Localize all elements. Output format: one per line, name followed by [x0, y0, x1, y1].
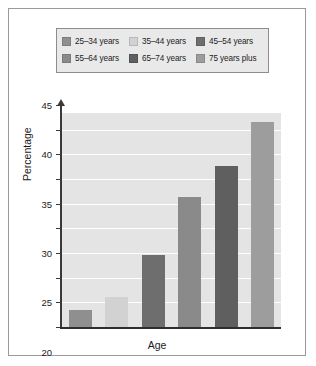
bar-slot — [99, 113, 136, 327]
legend-item-55-64: 55–64 years — [62, 54, 129, 63]
bar-slot — [135, 113, 172, 327]
y-axis-tick: 40 — [56, 130, 61, 131]
y-axis-tick: 10 — [56, 278, 61, 279]
y-axis-tick-label: 35 — [41, 198, 52, 209]
y-axis-tick: 25 — [56, 204, 61, 205]
bar — [142, 255, 165, 327]
bar — [105, 297, 128, 327]
legend-item-65-74: 65–74 years — [129, 54, 196, 63]
chart-figure: 25–34 years 35–44 years 45–54 years 55–6… — [8, 8, 306, 356]
bar-slot — [208, 113, 245, 327]
y-axis-tick-label: 40 — [41, 149, 52, 160]
legend-swatch-icon — [129, 37, 138, 46]
legend-swatch-icon — [196, 54, 205, 63]
legend-item-25-34: 25–34 years — [62, 37, 129, 46]
bar — [178, 197, 201, 327]
y-axis-tick: 5 — [56, 302, 61, 303]
x-axis-title: Age — [9, 339, 305, 351]
legend-label: 55–64 years — [75, 54, 119, 63]
x-axis-line — [60, 327, 281, 329]
legend-label: 65–74 years — [142, 54, 186, 63]
legend-swatch-icon — [196, 37, 205, 46]
y-axis-tick: 30 — [56, 179, 61, 180]
y-axis-tick: 35 — [56, 154, 61, 155]
legend-item-35-44: 35–44 years — [129, 37, 196, 46]
y-axis-tick: 20 — [56, 228, 61, 229]
legend-label: 25–34 years — [75, 37, 119, 46]
legend-swatch-icon — [62, 37, 71, 46]
bar-slot — [172, 113, 209, 327]
legend-row: 55–64 years 65–74 years 75 years plus — [62, 50, 263, 67]
bar — [251, 122, 274, 327]
bar — [215, 166, 238, 327]
legend-item-75-plus: 75 years plus — [196, 54, 263, 63]
y-axis-tick-label: 45 — [41, 100, 52, 111]
y-axis-tick-label: 25 — [41, 297, 52, 308]
y-axis-tick-label: 30 — [41, 248, 52, 259]
bar-slot — [62, 113, 99, 327]
y-axis-title: Percentage — [21, 127, 33, 181]
plot-area-wrapper: 051015202530354045 — [62, 105, 281, 327]
y-axis-tick: 45 — [56, 105, 61, 106]
legend-label: 35–44 years — [142, 37, 186, 46]
legend-swatch-icon — [62, 54, 71, 63]
chart-legend: 25–34 years 35–44 years 45–54 years 55–6… — [56, 28, 269, 73]
bar-slot — [245, 113, 282, 327]
plot-area — [62, 113, 281, 327]
legend-swatch-icon — [129, 54, 138, 63]
y-axis-tick: 15 — [56, 253, 61, 254]
legend-item-45-54: 45–54 years — [196, 37, 263, 46]
legend-label: 75 years plus — [209, 54, 256, 63]
bar-series — [62, 113, 281, 327]
legend-label: 45–54 years — [209, 37, 253, 46]
bar — [69, 310, 92, 327]
legend-row: 25–34 years 35–44 years 45–54 years — [62, 33, 263, 50]
